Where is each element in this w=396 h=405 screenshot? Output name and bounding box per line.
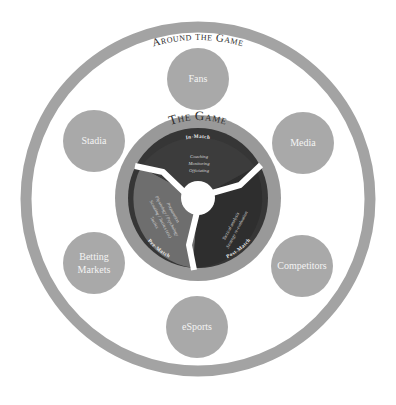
center-hub <box>181 181 215 215</box>
in-match-item: Coaching <box>190 154 209 159</box>
in-match-item: Officiating <box>189 168 210 173</box>
satellite-media: Media <box>272 112 334 174</box>
satellite-label: eSports <box>182 321 212 332</box>
satellite-label: Stadia <box>82 135 108 146</box>
the-game: The Game In-Match Coaching Monitoring Of… <box>115 108 281 281</box>
satellite-label: Media <box>290 137 316 148</box>
satellite-esports: eSports <box>166 296 228 358</box>
satellite-circle <box>63 232 125 294</box>
satellite-label: Fans <box>189 73 208 84</box>
satellite-competitors: Competitors <box>271 235 333 297</box>
satellite-label-line1: Betting <box>79 251 108 262</box>
satellite-stadia: Stadia <box>63 110 125 172</box>
in-match-item: Monitoring <box>188 161 211 166</box>
satellite-label-line2: Markets <box>78 264 111 275</box>
satellite-betting-markets: Betting Markets <box>63 232 125 294</box>
satellite-label: Competitors <box>277 260 327 271</box>
around-the-game-diagram: Around the Game Fans Stadia Media Bettin… <box>0 0 396 405</box>
satellite-fans: Fans <box>167 48 229 110</box>
